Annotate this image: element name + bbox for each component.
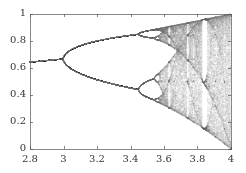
x-tick-label: 3.4 [116,154,146,164]
x-tick-label: 4 [216,154,246,164]
y-tick-label: 0.2 [2,116,26,126]
x-tick-label: 3.2 [82,154,112,164]
x-tick-label: 3.8 [183,154,213,164]
y-tick-label: 0.6 [2,62,26,72]
y-tick-label: 0 [2,143,26,153]
y-tick-label: 0.8 [2,35,26,45]
y-tick-label: 0.4 [2,89,26,99]
y-tick-label: 1 [2,8,26,18]
x-tick-label: 2.8 [15,154,45,164]
x-tick-label: 3.6 [149,154,179,164]
x-tick-label: 3 [49,154,79,164]
bifurcation-plot [0,0,246,173]
